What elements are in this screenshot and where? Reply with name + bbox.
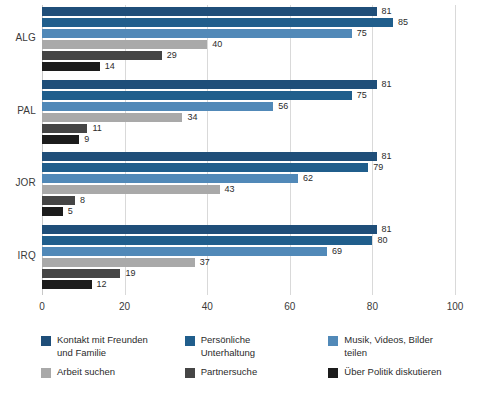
bar[interactable]	[42, 225, 377, 234]
bar-value-label: 9	[84, 133, 89, 145]
x-tick-label-20: 20	[119, 301, 130, 312]
bar-row: 85	[42, 18, 455, 27]
bar[interactable]	[42, 62, 100, 71]
bar-value-label: 75	[357, 27, 367, 39]
bar-value-label: 80	[377, 234, 387, 246]
legend-item[interactable]: Über Politik diskutieren	[328, 366, 466, 394]
legend-swatch-icon	[185, 368, 195, 378]
category-label-irq: IRQ	[0, 250, 36, 261]
bar-row: 14	[42, 62, 455, 71]
bar-value-label: 40	[212, 38, 222, 50]
bar[interactable]	[42, 102, 273, 111]
legend-swatch-icon	[185, 336, 195, 346]
bar[interactable]	[42, 113, 182, 122]
legend-label: Über Politik diskutieren	[344, 366, 441, 379]
legend-item[interactable]: Musik, Videos, Bilder teilen	[328, 334, 466, 362]
bar-value-label: 14	[105, 60, 115, 72]
bar-value-label: 75	[357, 89, 367, 101]
bar-value-label: 12	[97, 278, 107, 290]
chart-root: 8185754029148175563411981796243858180693…	[0, 0, 477, 407]
bar-value-label: 79	[373, 161, 383, 173]
bar-value-label: 5	[68, 205, 73, 217]
bar-row: 79	[42, 163, 455, 172]
legend-swatch-icon	[328, 368, 338, 378]
legend-label: Persönliche Unterhaltung	[201, 334, 255, 359]
x-tick-label-100: 100	[447, 301, 464, 312]
legend-swatch-icon	[41, 336, 51, 346]
bar-row: 75	[42, 29, 455, 38]
bar[interactable]	[42, 29, 352, 38]
bar-value-label: 34	[187, 111, 197, 123]
bar-value-label: 8	[80, 194, 85, 206]
legend-label: Partnersuche	[201, 366, 258, 379]
category-label-alg: ALG	[0, 32, 36, 43]
plot-area: 8185754029148175563411981796243858180693…	[42, 5, 455, 295]
bar-row: 5	[42, 207, 455, 216]
bar[interactable]	[42, 269, 120, 278]
bar[interactable]	[42, 80, 377, 89]
legend-item[interactable]: Partnersuche	[185, 366, 323, 394]
bar-group-alg: 818575402914	[42, 7, 455, 71]
bar-group-irq: 818069371912	[42, 225, 455, 289]
bar-row: 19	[42, 269, 455, 278]
bar[interactable]	[42, 163, 368, 172]
bar[interactable]	[42, 124, 87, 133]
x-axis: 020406080100	[42, 295, 455, 317]
bar-row: 29	[42, 51, 455, 60]
legend-item[interactable]: Arbeit suchen	[41, 366, 179, 394]
bar-row: 62	[42, 174, 455, 183]
bar[interactable]	[42, 18, 393, 27]
bar[interactable]	[42, 196, 75, 205]
legend-item[interactable]: Persönliche Unterhaltung	[185, 334, 323, 362]
bar-row: 81	[42, 225, 455, 234]
bar[interactable]	[42, 51, 162, 60]
bar-row: 75	[42, 91, 455, 100]
bar[interactable]	[42, 40, 207, 49]
bar-group-jor: 8179624385	[42, 152, 455, 216]
bar-value-label: 43	[225, 183, 235, 195]
chart-legend: Kontakt mit Freunden und FamiliePersönli…	[41, 334, 466, 394]
x-tick-label-40: 40	[202, 301, 213, 312]
bar-row: 12	[42, 280, 455, 289]
bar-value-label: 81	[382, 78, 392, 90]
bar[interactable]	[42, 236, 372, 245]
bar-row: 81	[42, 80, 455, 89]
category-label-pal: PAL	[0, 105, 36, 116]
legend-item[interactable]: Kontakt mit Freunden und Familie	[41, 334, 179, 362]
bar[interactable]	[42, 135, 79, 144]
bar-value-label: 19	[125, 267, 135, 279]
x-tick-label-60: 60	[284, 301, 295, 312]
bar-row: 34	[42, 113, 455, 122]
bar[interactable]	[42, 7, 377, 16]
bar-row: 81	[42, 152, 455, 161]
bar-group-pal: 81755634119	[42, 80, 455, 144]
bar-row: 81	[42, 7, 455, 16]
bar-row: 80	[42, 236, 455, 245]
bar-value-label: 85	[398, 16, 408, 28]
bar-row: 11	[42, 124, 455, 133]
bar-value-label: 11	[92, 122, 101, 134]
category-label-jor: JOR	[0, 177, 36, 188]
bar[interactable]	[42, 185, 220, 194]
bar-value-label: 62	[303, 172, 313, 184]
bar[interactable]	[42, 91, 352, 100]
bar[interactable]	[42, 247, 327, 256]
bar[interactable]	[42, 152, 377, 161]
bar-value-label: 56	[278, 100, 288, 112]
legend-label: Kontakt mit Freunden und Familie	[57, 334, 148, 359]
legend-swatch-icon	[41, 368, 51, 378]
bar[interactable]	[42, 258, 195, 267]
x-tick-label-0: 0	[39, 301, 45, 312]
bar-value-label: 37	[200, 256, 210, 268]
bar[interactable]	[42, 280, 92, 289]
bar-row: 8	[42, 196, 455, 205]
bar[interactable]	[42, 174, 298, 183]
legend-swatch-icon	[328, 336, 338, 346]
x-tick-label-80: 80	[367, 301, 378, 312]
legend-label: Arbeit suchen	[57, 366, 115, 379]
bar-row: 69	[42, 247, 455, 256]
bar[interactable]	[42, 207, 63, 216]
legend-label: Musik, Videos, Bilder teilen	[344, 334, 433, 359]
gridline-100	[455, 5, 456, 295]
bar-row: 43	[42, 185, 455, 194]
